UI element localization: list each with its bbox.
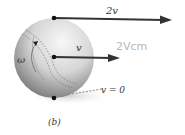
center-point-dot: [52, 55, 57, 60]
center-arrowhead-icon: [108, 54, 120, 62]
handwritten-note: 2Vcm: [116, 40, 147, 53]
top-velocity-label: 2v: [105, 5, 118, 16]
top-arrowhead-icon: [160, 16, 172, 25]
center-velocity-arrow: [54, 57, 112, 58]
bottom-contact-dot: [52, 96, 57, 101]
top-velocity-arrow: [54, 18, 164, 20]
top-point-dot: [52, 16, 57, 21]
omega-label: ω: [17, 54, 25, 65]
bottom-velocity-label: v = 0: [101, 85, 125, 95]
rolling-sphere-diagram: 2v v ω v = 0 2Vcm (b): [0, 0, 185, 135]
panel-label: (b): [48, 117, 61, 127]
center-velocity-label: v: [76, 42, 82, 53]
